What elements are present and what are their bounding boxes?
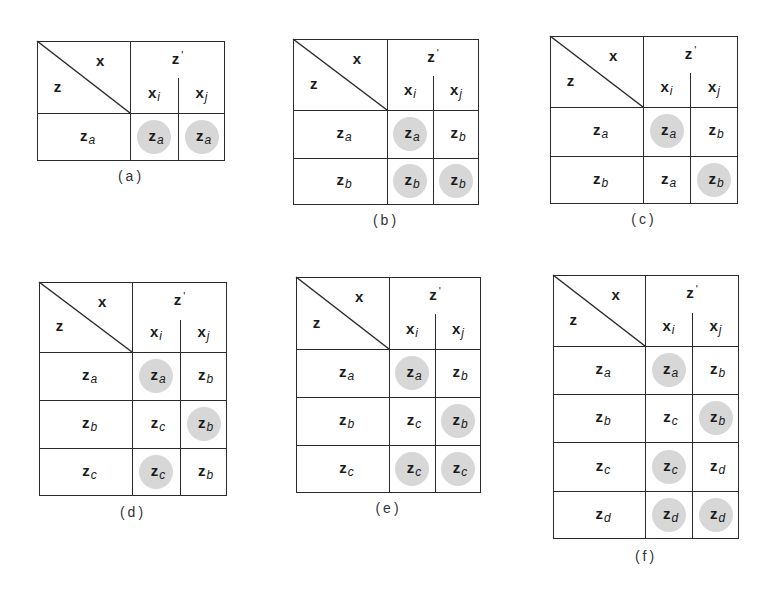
input-variable-label: x (609, 48, 617, 63)
header-diagonal-line (550, 36, 643, 107)
state-subscript: c (672, 414, 678, 428)
next-state-symbol: z (172, 50, 180, 67)
state-subscript: a (204, 133, 211, 147)
input-symbol: x (452, 320, 460, 337)
input-variable-label: x (96, 53, 104, 68)
state-subscript: c (415, 465, 421, 479)
state-subscript: c (461, 465, 467, 479)
input-variable-label: x (611, 287, 619, 302)
input-symbol: x (406, 320, 414, 337)
next-state-cell-xj: zb (198, 367, 213, 385)
input-symbol: x (148, 84, 156, 101)
diagonal-stroke (293, 39, 387, 110)
prime-mark: ' (181, 49, 183, 61)
state-variable-label: z (56, 318, 64, 333)
state-subscript: a (669, 127, 676, 141)
present-state-cell: za (339, 364, 354, 382)
state-symbol: z (452, 363, 460, 380)
present-state-cell: za (595, 361, 610, 379)
row-divider (39, 400, 227, 401)
present-state-cell: zc (339, 460, 354, 478)
column-divider (389, 277, 390, 493)
state-subscript: b (347, 417, 354, 431)
state-subscript: a (415, 369, 422, 383)
column-divider (132, 282, 133, 496)
next-state-cell-xj: zb (450, 125, 465, 143)
state-variable-label: z (310, 76, 318, 91)
input-symbol: x (150, 323, 158, 340)
panel-caption: (c) (631, 211, 656, 227)
state-symbol: z (450, 171, 458, 188)
state-symbol: z (404, 124, 412, 141)
input-subscript: i (415, 326, 418, 340)
input-xi-label: xi (148, 85, 160, 103)
input-symbol: x (708, 78, 716, 95)
state-symbol: z (339, 459, 347, 476)
state-symbol: z (336, 171, 344, 188)
next-state-cell-xi: za (150, 367, 165, 385)
state-subscript: a (601, 127, 608, 141)
state-subscript: b (345, 177, 352, 191)
prime-mark: ' (183, 290, 185, 302)
input-symbol: x (709, 317, 717, 334)
present-state-cell: zc (596, 458, 611, 476)
column-divider (645, 275, 646, 539)
input-subscript: i (670, 84, 673, 98)
state-subscript: b (461, 417, 468, 431)
input-subscript: j (719, 323, 722, 337)
next-state-label: z' (172, 50, 184, 66)
input-xj-label: xj (450, 82, 462, 100)
row-divider (553, 346, 739, 347)
next-state-symbol: z (174, 291, 182, 308)
state-symbol: z (80, 127, 88, 144)
input-xi-label: xi (404, 82, 416, 100)
next-state-cell-xi: za (404, 125, 419, 143)
input-subscript: i (157, 90, 160, 104)
panel-caption: (d) (120, 504, 146, 520)
input-subscript: i (159, 329, 162, 343)
present-state-cell: zb (595, 409, 610, 427)
header-diagonal-line (37, 41, 130, 113)
state-symbol: z (407, 411, 415, 428)
prime-mark: ' (694, 44, 696, 56)
next-state-cell-xi: zd (663, 506, 678, 524)
state-symbol: z (148, 127, 156, 144)
input-subscript: j (205, 90, 208, 104)
state-symbol: z (151, 414, 159, 431)
next-state-cell-xj: zb (708, 122, 723, 140)
input-symbol: x (404, 81, 412, 98)
input-column-divider (690, 73, 691, 204)
next-state-cell-xi: zb (404, 172, 419, 190)
state-subscript: b (413, 177, 420, 191)
state-symbol: z (710, 505, 718, 522)
present-state-cell: zb (339, 412, 354, 430)
state-symbol: z (595, 408, 603, 425)
state-symbol: z (198, 366, 206, 383)
next-state-label: z' (427, 48, 439, 64)
state-subscript: c (159, 420, 165, 434)
state-subscript: a (157, 133, 164, 147)
state-symbol: z (82, 462, 90, 479)
state-symbol: z (708, 170, 716, 187)
input-subscript: j (459, 87, 462, 101)
state-subscript: b (461, 369, 468, 383)
header-diagonal-line (293, 39, 387, 110)
state-symbol: z (339, 363, 347, 380)
state-symbol: z (198, 414, 206, 431)
state-subscript: b (718, 366, 725, 380)
input-subscript: i (672, 323, 675, 337)
state-symbol: z (710, 408, 718, 425)
present-state-cell: za (336, 125, 351, 143)
next-state-label: z' (685, 45, 697, 61)
present-state-cell: za (82, 367, 97, 385)
next-state-cell-xj: zb (710, 409, 725, 427)
row-divider (550, 107, 738, 108)
next-state-cell-xi: za (406, 364, 421, 382)
present-state-cell: za (593, 122, 608, 140)
input-xj-label: xj (709, 318, 721, 336)
row-divider (296, 445, 481, 446)
panel-caption: (a) (118, 168, 144, 184)
state-symbol: z (150, 366, 158, 383)
input-xi-label: xi (406, 321, 418, 339)
present-state-cell: zb (336, 172, 351, 190)
